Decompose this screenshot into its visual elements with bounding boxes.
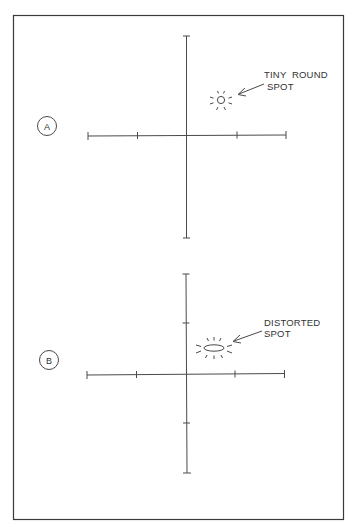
- panel-b-annotation-line1: DISTORTED: [264, 317, 320, 328]
- tiny-round-spot-icon: [210, 91, 232, 110]
- diagram-canvas: A: [0, 0, 353, 527]
- panel-b: B: [40, 274, 321, 473]
- panel-b-vertical-axis: [183, 274, 192, 473]
- panel-a-vertical-axis: [183, 36, 190, 238]
- panel-b-label-badge: B: [40, 351, 59, 370]
- panel-b-arrow-icon: [233, 331, 262, 343]
- panel-b-label: B: [46, 356, 52, 366]
- panel-a-annotation-line1: TINY ROUND: [264, 69, 328, 80]
- panel-b-annotation-line2: SPOT: [264, 328, 291, 339]
- panel-a-annotation-line2: SPOT: [267, 81, 294, 92]
- panel-a-arrow-icon: [238, 84, 264, 96]
- figure-frame: [14, 16, 344, 520]
- distorted-spot-icon: [196, 337, 232, 359]
- panel-a-label-badge: A: [38, 117, 57, 136]
- panel-a-label: A: [44, 122, 50, 132]
- panel-a: A: [38, 36, 328, 238]
